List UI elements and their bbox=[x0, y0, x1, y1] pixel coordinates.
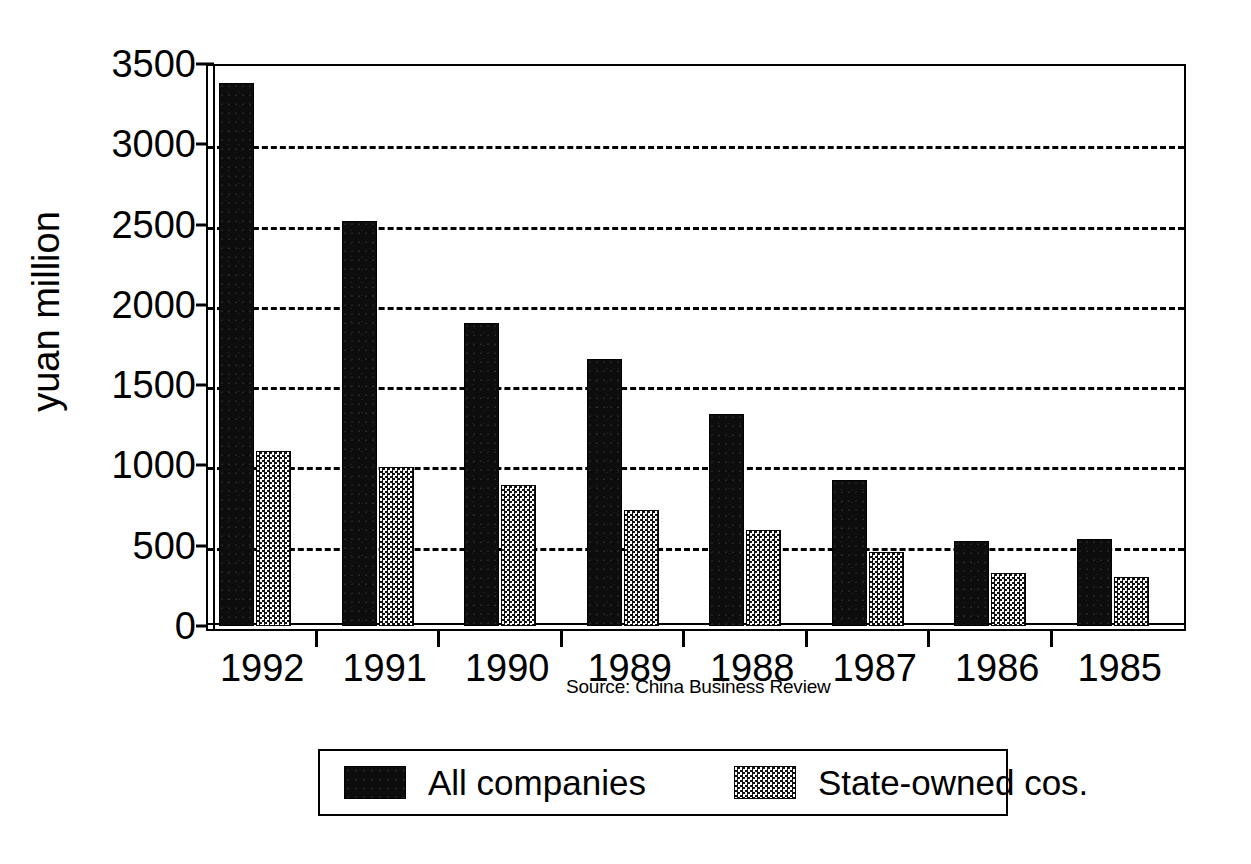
y-tick-label: 0 bbox=[92, 607, 196, 645]
gridline bbox=[208, 146, 1184, 149]
gridline bbox=[208, 307, 1184, 310]
y-tick-label: 3500 bbox=[92, 45, 196, 83]
gridline bbox=[208, 548, 1184, 551]
solid-black-swatch bbox=[344, 766, 406, 799]
chart-legend: All companiesState-owned cos. bbox=[318, 749, 1008, 816]
source-note: Source: China Business Review bbox=[566, 676, 831, 698]
y-tick-label: 3000 bbox=[92, 125, 196, 163]
y-tick-label: 500 bbox=[92, 527, 196, 565]
x-tick-label: 1987 bbox=[815, 645, 935, 691]
x-tick-label: 1992 bbox=[202, 645, 322, 691]
legend-entry: All companies bbox=[344, 765, 646, 800]
checkered-swatch bbox=[734, 766, 796, 799]
legend-entry: State-owned cos. bbox=[734, 765, 1088, 800]
x-tick-label: 1986 bbox=[937, 645, 1057, 691]
gridline bbox=[208, 467, 1184, 470]
legend-label: State-owned cos. bbox=[818, 765, 1088, 800]
y-axis-title: yuan million bbox=[25, 182, 68, 442]
y-axis-tick-labels: 0500100015002000250030003500 bbox=[92, 0, 196, 864]
bar-chart-figure: yuan million 050010001500200025003000350… bbox=[0, 0, 1251, 864]
x-tick-label: 1985 bbox=[1060, 645, 1180, 691]
legend-label: All companies bbox=[428, 765, 646, 800]
gridline bbox=[208, 227, 1184, 230]
y-tick-label: 1000 bbox=[92, 446, 196, 484]
y-tick-label: 2000 bbox=[92, 286, 196, 324]
y-tick-label: 2500 bbox=[92, 206, 196, 244]
gridline bbox=[208, 387, 1184, 390]
x-tick-label: 1991 bbox=[325, 645, 445, 691]
x-tick-label: 1990 bbox=[447, 645, 567, 691]
y-tick-label: 1500 bbox=[92, 366, 196, 404]
plot-area bbox=[206, 64, 1186, 631]
